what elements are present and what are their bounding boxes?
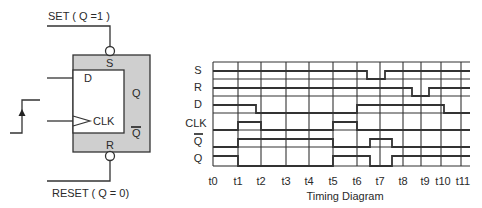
tick-t7: t7 <box>375 175 384 187</box>
tick-t10: t10 <box>435 175 450 187</box>
rising-edge-waveform <box>10 100 40 133</box>
signal-q-label: Q <box>194 152 203 164</box>
signal-s-label: S <box>194 64 201 76</box>
signal-clk-label: CLK <box>185 117 207 129</box>
tick-t2: t2 <box>256 175 265 187</box>
pin-s-label: S <box>106 57 113 69</box>
set-inversion-bubble-icon <box>106 47 115 56</box>
timing-diagram-title: Timing Diagram <box>306 190 383 202</box>
tick-t0: t0 <box>208 175 217 187</box>
tick-t6: t6 <box>352 175 361 187</box>
reset-line <box>47 161 110 181</box>
tick-t3: t3 <box>281 175 290 187</box>
waveform-r <box>213 88 470 96</box>
set-label: SET ( Q =1 ) <box>48 10 110 22</box>
time-grid <box>213 62 461 166</box>
tick-t4: t4 <box>304 175 313 187</box>
waveform-q <box>213 156 470 166</box>
output-qbar-label: Q <box>132 127 141 139</box>
pin-clk-label: CLK <box>93 115 115 127</box>
waveform-qbar <box>213 139 470 147</box>
pin-d-label: D <box>84 72 92 84</box>
tick-t8: t8 <box>398 175 407 187</box>
tick-t11: t11 <box>456 175 470 187</box>
rising-edge-arrow-icon <box>19 109 26 116</box>
pin-r-label: R <box>106 139 114 151</box>
signal-labels: S R D CLK Q Q <box>185 64 207 164</box>
waveform-s <box>213 71 470 79</box>
flip-flop-diagram: SET ( Q =1 ) S R D CLK Q Q RESET ( Q = 0… <box>0 0 482 208</box>
row-grid <box>213 62 470 166</box>
waveform-clk <box>213 122 470 130</box>
set-line <box>47 26 110 46</box>
tick-t1: t1 <box>233 175 242 187</box>
reset-label: RESET ( Q = 0) <box>52 187 129 199</box>
time-ticks: t0 t1 t2 t3 t4 t5 t6 t7 t8 t9 t10 t11 <box>208 175 470 187</box>
reset-inversion-bubble-icon <box>106 152 115 161</box>
signal-qbar-label: Q <box>194 135 203 147</box>
output-q-label: Q <box>132 87 141 99</box>
tick-t9: t9 <box>420 175 429 187</box>
waveform-d <box>213 105 470 113</box>
tick-t5: t5 <box>328 175 337 187</box>
signal-d-label: D <box>194 98 202 110</box>
signal-r-label: R <box>194 81 202 93</box>
